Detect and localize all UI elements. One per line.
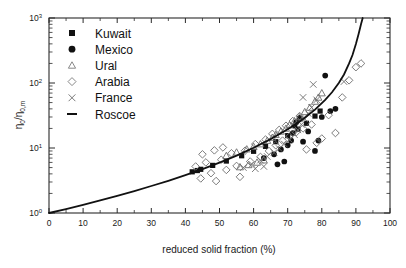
- marker-filled-circle: [333, 106, 339, 112]
- figure-container: 100101102103 0102030405060708090100 Kuwa…: [0, 0, 406, 268]
- x-tick-label: 20: [112, 218, 122, 228]
- scatter-plot-svg: 100101102103 0102030405060708090100 Kuwa…: [0, 0, 406, 268]
- legend-marker-filled-circle: [69, 46, 76, 53]
- x-tick-label: 70: [283, 218, 293, 228]
- legend-label: France: [95, 91, 133, 105]
- marker-filled-circle: [275, 162, 281, 168]
- x-tick-label: 0: [47, 218, 52, 228]
- x-tick-label: 50: [215, 218, 225, 228]
- marker-filled-circle: [322, 73, 328, 79]
- x-tick-label: 10: [78, 218, 88, 228]
- marker-filled-circle: [300, 139, 306, 145]
- marker-filled-circle: [312, 148, 318, 154]
- figure-background: [0, 0, 406, 268]
- x-axis-label: reduced solid fraction (%): [162, 244, 275, 255]
- legend-label: Roscoe: [95, 108, 136, 122]
- marker-filled-square: [312, 113, 317, 118]
- x-tick-label: 40: [181, 218, 191, 228]
- legend-marker-filled-square: [69, 30, 75, 36]
- marker-filled-square: [317, 108, 322, 113]
- x-tick-label: 100: [383, 218, 397, 228]
- legend-label: Kuwait: [95, 27, 132, 41]
- x-tick-label: 80: [317, 218, 327, 228]
- legend-label: Ural: [95, 59, 117, 73]
- x-tick-label: 90: [351, 218, 361, 228]
- x-tick-label: 30: [147, 218, 157, 228]
- marker-filled-circle: [319, 114, 325, 120]
- legend-label: Mexico: [95, 43, 133, 57]
- x-tick-label: 60: [249, 218, 259, 228]
- marker-filled-circle: [281, 159, 287, 165]
- legend-label: Arabia: [95, 75, 130, 89]
